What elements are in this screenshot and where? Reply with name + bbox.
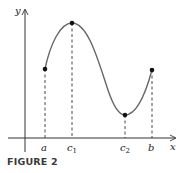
tick-label-c1: c1 <box>67 142 77 155</box>
critical-points <box>43 21 155 118</box>
y-axis-label: y <box>14 5 21 16</box>
function-graph: y x a c1 c2 b <box>0 0 179 173</box>
tick-label-b: b <box>148 142 154 153</box>
tick-label-a: a <box>41 142 47 153</box>
tick-label-c2: c2 <box>120 142 130 155</box>
figure-caption: FIGURE 2 <box>7 156 58 167</box>
x-axis-label: x <box>170 141 176 152</box>
curve <box>45 23 152 115</box>
dashed-guides <box>45 23 152 138</box>
